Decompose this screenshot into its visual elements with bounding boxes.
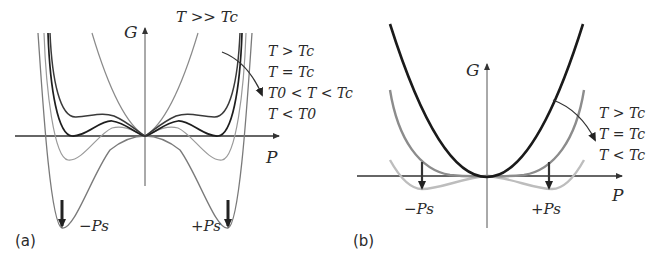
- plus-ps-label-a: +Ps: [191, 217, 221, 235]
- minus-ps-label-a: −Ps: [79, 217, 109, 235]
- legend-a-3: T < T0: [268, 106, 316, 122]
- legend-b-0: T > Tc: [599, 105, 645, 121]
- panel-a: G P T >> Tc T > Tc T = Tc T0 < T < Tc T …: [15, 8, 353, 250]
- p-label-b: P: [611, 185, 624, 205]
- panel-tag-b: (b): [353, 232, 374, 250]
- legend-b-1: T = Tc: [599, 126, 645, 142]
- p-label-a: P: [265, 147, 278, 167]
- panel-tag-a: (a): [15, 232, 36, 250]
- legend-a-1: T = Tc: [268, 64, 314, 80]
- temperature-arrow-b: [553, 100, 595, 140]
- panel-b: G P T > Tc T = Tc T < Tc −Ps +Ps (b): [353, 24, 645, 250]
- plus-ps-label-b: +Ps: [531, 200, 561, 218]
- legend-a-2: T0 < T < Tc: [268, 85, 353, 101]
- g-label-b: G: [466, 60, 480, 80]
- landau-free-energy-figure: G P T >> Tc T > Tc T = Tc T0 < T < Tc T …: [0, 0, 649, 263]
- top-label-a: T >> Tc: [176, 8, 239, 26]
- minus-ps-label-b: −Ps: [404, 200, 434, 218]
- g-label-a: G: [124, 22, 138, 42]
- legend-b-2: T < Tc: [599, 147, 645, 163]
- legend-a-0: T > Tc: [268, 43, 314, 59]
